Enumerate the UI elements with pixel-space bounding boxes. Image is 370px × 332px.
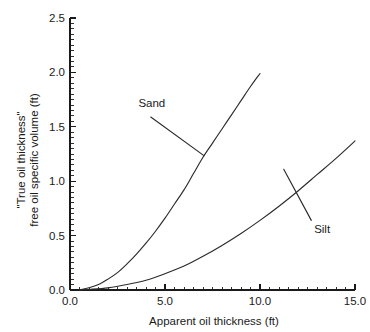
series-label-silt: Silt [314,223,331,235]
y-axis-title-line1: "True oil thickness" [15,111,27,208]
x-axis-tick-labels: 0.05.010.015.0 [62,295,366,307]
series-curve-sand [80,73,261,290]
x-tick-label: 5.0 [157,295,173,307]
y-tick-label: 0.5 [49,230,65,242]
chart-figure: 0.00.51.01.52.02.5 0.05.010.015.0 Sand S… [0,0,370,332]
x-axis-title: Apparent oil thickness (ft) [149,315,279,327]
x-tick-label: 0.0 [62,295,78,307]
silt-leader-line [284,169,312,220]
series-label-sand: Sand [138,97,165,109]
y-tick-label: 2.5 [49,12,65,24]
series-curve-silt [80,141,356,290]
y-tick-label: 1.0 [49,175,65,187]
sand-leader-line [151,117,204,156]
y-axis-tick-labels: 0.00.51.01.52.02.5 [49,12,65,296]
y-axis-title-line2: free oil specific volume (ft) [28,93,40,227]
y-tick-label: 1.5 [49,121,65,133]
y-tick-label: 2.0 [49,66,65,78]
x-tick-label: 15.0 [344,295,366,307]
oil-thickness-chart: 0.00.51.01.52.02.5 0.05.010.015.0 Sand S… [0,0,370,332]
x-tick-label: 10.0 [249,295,271,307]
